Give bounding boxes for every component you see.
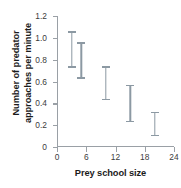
y-tick: 0.2 xyxy=(53,125,58,126)
y-tick: 0.8 xyxy=(53,60,58,61)
y-axis-title-line1: Number of predator xyxy=(11,31,23,116)
y-tick-label: 1.2 xyxy=(35,11,47,21)
y-tick: 0.6 xyxy=(53,82,58,83)
error-bar-cap-lower xyxy=(102,99,110,100)
x-tick-label: 6 xyxy=(84,152,89,162)
x-tick xyxy=(145,147,146,152)
y-tick-label: 0.2 xyxy=(35,120,47,130)
error-bar-cap-lower xyxy=(68,66,76,67)
x-tick-label: 0 xyxy=(55,152,60,162)
error-bar-cap-upper xyxy=(151,112,159,113)
y-tick-label: 0 xyxy=(42,142,47,152)
chart-figure: Number of predator approaches per minute… xyxy=(0,0,181,188)
y-axis-title-line2: approaches per minute xyxy=(23,23,35,123)
error-bar-cap-lower xyxy=(151,135,159,136)
x-tick xyxy=(86,147,87,152)
error-bar-cap-upper xyxy=(77,42,85,43)
error-bar-cap-upper xyxy=(102,66,110,67)
x-tick xyxy=(57,147,58,152)
x-tick xyxy=(116,147,117,152)
x-tick xyxy=(174,147,175,152)
error-bar-cap-upper xyxy=(126,85,134,86)
x-tick-label: 18 xyxy=(140,152,149,162)
error-bar xyxy=(81,42,82,77)
y-tick: 0.4 xyxy=(53,103,58,104)
y-tick: 1.2 xyxy=(53,16,58,17)
y-tick-label: 1.0 xyxy=(35,33,47,43)
error-bar-cap-upper xyxy=(68,31,76,32)
error-bar-cap-lower xyxy=(126,121,134,122)
y-axis-title: Number of predator approaches per minute xyxy=(8,8,38,138)
x-tick-label: 12 xyxy=(111,152,120,162)
plot-area: 00.20.40.60.81.01.2 06121824 xyxy=(57,16,174,147)
x-tick-label: 24 xyxy=(169,152,178,162)
error-bar xyxy=(154,112,155,135)
error-bar-cap-lower xyxy=(77,77,85,78)
error-bar xyxy=(71,31,72,66)
y-tick: 1.0 xyxy=(53,38,58,39)
x-axis-title: Prey school size xyxy=(40,168,181,178)
y-tick-label: 0.4 xyxy=(35,98,47,108)
y-tick-label: 0.8 xyxy=(35,55,47,65)
error-bar xyxy=(105,66,106,99)
error-bar xyxy=(129,85,130,121)
y-tick-label: 0.6 xyxy=(35,77,47,87)
